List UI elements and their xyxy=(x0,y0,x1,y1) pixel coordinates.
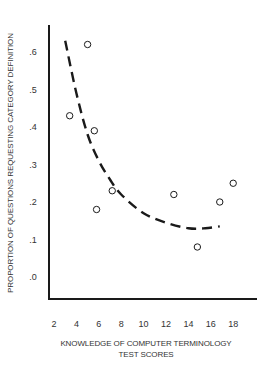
y-tick-label: .6 xyxy=(29,47,37,57)
y-tick-label: .2 xyxy=(29,197,37,207)
y-tick-label: .5 xyxy=(29,85,37,95)
data-point-open-circle xyxy=(217,199,223,205)
data-point-open-circle xyxy=(91,128,97,134)
x-tick-label: 16 xyxy=(206,319,216,329)
y-tick-label: .0 xyxy=(29,272,37,282)
y-axis-label-group: PROPORTION OF QUESTIONS REQUESTING CATEG… xyxy=(6,33,15,293)
x-tick-label: 4 xyxy=(74,319,79,329)
data-point-open-circle xyxy=(171,191,177,197)
y-tick-label: .3 xyxy=(29,160,37,170)
data-point-open-circle xyxy=(230,180,236,186)
y-axis-label: PROPORTION OF QUESTIONS REQUESTING CATEG… xyxy=(6,33,15,293)
y-axis-ticks: .0.1.2.3.4.5.6 xyxy=(29,47,37,282)
data-point-open-circle xyxy=(194,244,200,250)
data-point-open-circle xyxy=(109,188,115,194)
data-point-open-circle xyxy=(93,206,99,212)
data-points xyxy=(66,41,236,250)
x-axis-ticks: 24681012141618 xyxy=(51,319,238,329)
y-tick-label: .1 xyxy=(29,235,37,245)
x-tick-label: 2 xyxy=(51,319,56,329)
x-tick-label: 14 xyxy=(183,319,193,329)
data-point-open-circle xyxy=(84,41,90,47)
x-tick-label: 6 xyxy=(96,319,101,329)
x-tick-label: 12 xyxy=(161,319,171,329)
x-tick-label: 18 xyxy=(228,319,238,329)
data-point-open-circle xyxy=(66,113,72,119)
fitted-curve-dashed xyxy=(65,41,220,229)
x-tick-label: 8 xyxy=(119,319,124,329)
x-axis-label-line1: KNOWLEDGE OF COMPUTER TERMINOLOGY xyxy=(60,339,232,348)
y-tick-label: .4 xyxy=(29,122,37,132)
x-tick-label: 10 xyxy=(139,319,149,329)
x-axis-label-line2: TEST SCORES xyxy=(118,350,173,359)
scatter-chart: PROPORTION OF QUESTIONS REQUESTING CATEG… xyxy=(0,0,265,369)
